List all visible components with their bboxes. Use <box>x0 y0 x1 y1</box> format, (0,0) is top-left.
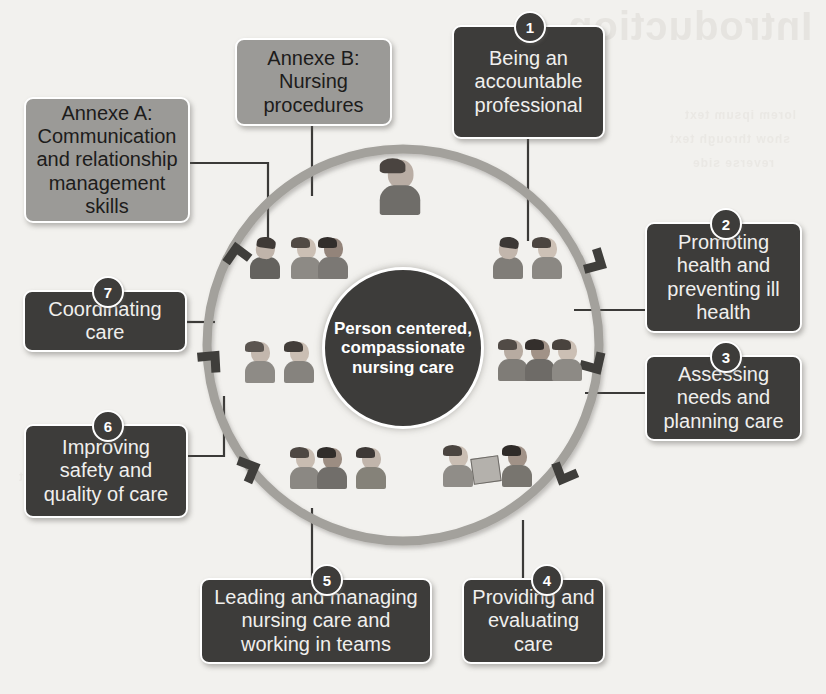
diagram-canvas: Introduction lorem ipsum text show throu… <box>0 0 826 694</box>
people-group-lower-left <box>290 448 383 489</box>
badge-platform-1: 1 <box>514 11 546 43</box>
badge-platform-6: 6 <box>92 410 124 442</box>
badge-platform-5: 5 <box>311 564 343 596</box>
connector-annexe-a <box>190 163 268 248</box>
annexe-a-box[interactable]: Annexe A: Communication and relationship… <box>24 97 190 223</box>
people-group-lower-right <box>443 446 529 487</box>
people-group-mid-left <box>245 342 311 383</box>
people-group-upper-right <box>493 238 559 279</box>
badge-platform-3: 3 <box>710 341 742 373</box>
badge-platform-2: 2 <box>710 208 742 240</box>
platform-4-box[interactable]: Providing and evaluating care <box>462 578 605 664</box>
people-group-mid-right <box>498 340 579 381</box>
people-group-top <box>385 174 412 215</box>
annexe-b-box[interactable]: Annexe B: Nursing procedures <box>235 38 392 126</box>
people-group-upper-left <box>250 238 345 279</box>
clipboard-icon <box>470 455 501 485</box>
centre-circle-label: Person centered, compassionate nursing c… <box>322 267 484 429</box>
badge-platform-4: 4 <box>531 564 563 596</box>
badge-platform-7: 7 <box>92 276 124 308</box>
